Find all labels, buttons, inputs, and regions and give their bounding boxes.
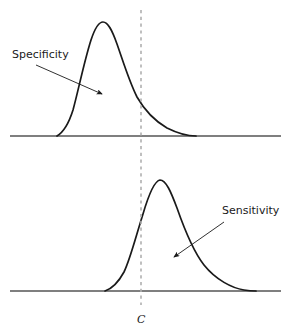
- top-panel: [10, 22, 281, 136]
- cutoff-label-c: C: [137, 313, 146, 326]
- sensitivity-label: Sensitivity: [222, 204, 280, 217]
- roc-distributions-figure: Specificity Sensitivity C: [0, 0, 291, 336]
- specificity-label: Specificity: [12, 48, 69, 61]
- sensitivity-annotation: Sensitivity: [174, 204, 280, 257]
- sensitivity-arrow: [174, 222, 224, 257]
- specificity-arrow: [36, 65, 102, 94]
- specificity-annotation: Specificity: [12, 48, 102, 94]
- figure-canvas: Specificity Sensitivity C: [0, 0, 291, 336]
- bottom-panel: [10, 180, 281, 291]
- sensitivity-distribution-curve: [105, 180, 256, 291]
- specificity-distribution-curve: [57, 22, 196, 136]
